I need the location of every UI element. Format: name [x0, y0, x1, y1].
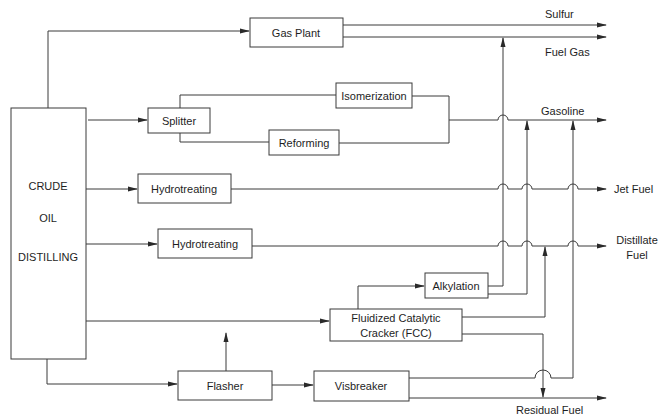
- unit-reforming: Reforming: [269, 130, 339, 155]
- flow-crude-to-gasplant: [48, 31, 249, 108]
- hydrotreating-2-label: Hydrotreating: [172, 238, 238, 250]
- unit-splitter: Splitter: [148, 108, 210, 133]
- unit-isomerization: Isomerization: [336, 83, 412, 108]
- hydrotreating-1-label: Hydrotreating: [151, 183, 217, 195]
- flow-hydrotreating-2-to-distillate: [252, 241, 606, 246]
- product-jet-fuel: Jet Fuel: [614, 183, 653, 195]
- splitter-label: Splitter: [162, 115, 197, 127]
- product-residual-fuel: Residual Fuel: [516, 404, 583, 416]
- flow-splitter-to-isomerization: [180, 95, 336, 108]
- flasher-label: Flasher: [207, 380, 244, 392]
- crude-label-line2: OIL: [39, 212, 57, 224]
- reforming-label: Reforming: [279, 137, 330, 149]
- crude-label-line1: CRUDE: [28, 180, 67, 192]
- product-gasoline: Gasoline: [541, 105, 584, 117]
- product-distillate-line2: Fuel: [626, 249, 647, 261]
- unit-hydrotreating-2: Hydrotreating: [158, 229, 252, 258]
- flow-hydrotreating-1-to-jetfuel: [231, 184, 606, 189]
- refinery-flow-diagram: CRUDE OIL DISTILLING Gas Plant Splitter …: [0, 0, 663, 419]
- unit-fcc: Fluidized Catalytic Cracker (FCC): [330, 309, 462, 341]
- product-labels: Sulfur Fuel Gas Gasoline Jet Fuel Distil…: [516, 8, 658, 416]
- unit-crude-oil-distilling: CRUDE OIL DISTILLING: [11, 108, 86, 359]
- unit-visbreaker: Visbreaker: [314, 371, 409, 401]
- flow-splitter-to-reforming: [180, 133, 269, 142]
- unit-flasher: Flasher: [178, 371, 272, 400]
- alkylation-label: Alkylation: [432, 280, 479, 292]
- product-distillate-line1: Distillate: [616, 234, 658, 246]
- product-fuel-gas: Fuel Gas: [545, 46, 590, 58]
- fcc-label-line1: Fluidized Catalytic: [351, 312, 441, 324]
- unit-gas-plant: Gas Plant: [250, 18, 343, 47]
- gas-plant-label: Gas Plant: [272, 27, 320, 39]
- isomerization-label: Isomerization: [341, 90, 406, 102]
- flow-alkylation-to-fuelgas: [488, 38, 503, 286]
- crude-label-line3: DISTILLING: [18, 251, 78, 263]
- visbreaker-label: Visbreaker: [335, 380, 388, 392]
- flow-fcc-to-residual: [462, 334, 543, 397]
- fcc-label-line2: Cracker (FCC): [360, 327, 432, 339]
- flow-alkylation-to-gasoline: [488, 121, 527, 294]
- unit-hydrotreating-1: Hydrotreating: [138, 174, 231, 203]
- flow-lines: [47, 25, 606, 398]
- flow-crude-to-flasher: [47, 359, 177, 384]
- flow-fcc-to-alkylation: [358, 286, 424, 309]
- unit-alkylation: Alkylation: [425, 273, 488, 298]
- product-sulfur: Sulfur: [545, 8, 574, 20]
